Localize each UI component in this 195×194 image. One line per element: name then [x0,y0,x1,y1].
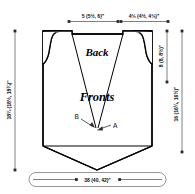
dimension-right-inner-cap-top [166,30,169,33]
dimension-right-inner-label: 8 (8, 8½)" [158,44,164,67]
garment-schematic-diagram: Back Fronts A B 5 (5½, 6)" 4⅓ (4½, 4⅔)" [0,0,195,194]
dimension-bottom-label: 38 (40, 42)" [84,177,111,183]
dimension-bottom-cap-left [75,178,78,181]
dimension-left-outer-cap-top [14,30,17,33]
dimension-top-left-cap-end [117,20,120,23]
dimension-right-outer: 16 (16¼, 16½)" [173,30,183,154]
dimension-top-right-cap-end [167,20,170,23]
dimension-right-outer-label: 16 (16¼, 16½)" [173,86,179,121]
dimension-bottom: 38 (40, 42)" [29,173,166,187]
dimension-left-outer-cap-bottom [14,169,17,172]
schematic-canvas: Back Fronts A B 5 (5½, 6)" 4⅓ (4½, 4⅔)" [0,0,195,194]
dimension-left-outer-label: 18¼ (18½, 18¾)" [6,80,12,120]
dimension-top-left: 5 (5½, 6)" [68,13,120,23]
dimension-right-outer-cap-bottom [181,151,184,154]
dimension-left-outer: 18¼ (18½, 18¾)" [6,30,16,172]
dimension-right-inner: 8 (8, 8½)" [158,30,168,84]
callout-B-label: B [75,113,80,120]
label-back: Back [84,46,109,58]
dimension-top-left-cap-start [68,20,71,23]
dimension-right-outer-cap-top [181,30,184,33]
dimension-top-right-label: 4⅓ (4½, 4⅔)" [129,13,160,19]
dimension-top-right: 4⅓ (4½, 4⅔)" [120,13,170,23]
label-fronts: Fronts [79,90,115,104]
callout-A-label: A [113,122,118,129]
dimension-bottom-cap-right [118,178,121,181]
dimension-right-inner-cap-bottom [166,81,169,84]
dimension-top-right-cap-start [120,20,123,23]
dimension-top-left-label: 5 (5½, 6)" [82,13,105,19]
